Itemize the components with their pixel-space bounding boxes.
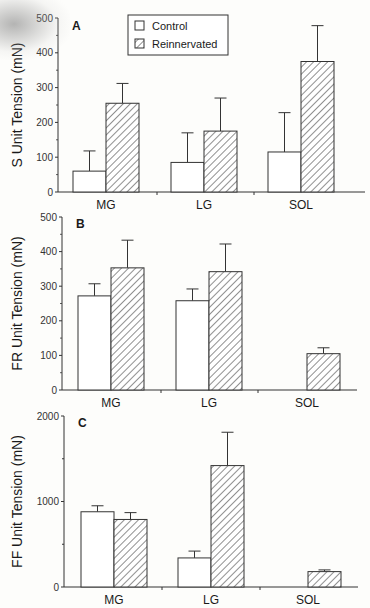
panel-label: C [78,416,87,430]
y-tick-label: 100 [36,152,53,163]
legend-control-swatch [135,21,144,30]
bar-lg-control [176,301,209,390]
y-tick-label: 100 [40,350,57,361]
bar-lg-control [171,162,204,192]
y-tick-label: 200 [36,117,53,128]
x-tick-label: SOL [289,198,313,212]
bar-lg-reinnervated [209,272,242,390]
y-axis-label: S Unit Tension (mN) [9,42,25,167]
y-tick-label: 200 [40,315,57,326]
bar-sol-reinnervated [308,572,341,587]
x-tick-label: MG [96,198,115,212]
bar-sol-reinnervated [307,354,340,390]
bar-mg-reinnervated [114,519,147,587]
bar-lg-control [178,558,211,587]
panel-label: A [72,19,81,33]
bar-sol-reinnervated [301,62,334,193]
panel-label: B [76,217,85,231]
x-tick-label: SOL [296,593,320,607]
y-axis-label: FF Unit Tension (mN) [9,435,25,568]
y-tick-label: 0 [53,582,59,593]
bar-lg-reinnervated [204,131,237,192]
x-tick-label: LG [203,593,219,607]
x-tick-label: SOL [295,396,319,410]
legend: ControlReinnervated [128,15,228,55]
bar-mg-reinnervated [111,268,144,390]
y-tick-label: 500 [36,13,53,24]
figure: 0100200300400500S Unit Tension (mN)AMGLG… [0,0,370,608]
y-tick-label: 300 [40,281,57,292]
y-axis-label: FR Unit Tension (mN) [9,236,25,370]
legend-reinnervated-label: Reinnervated [152,38,217,50]
bar-mg-reinnervated [106,103,139,192]
bar-lg-reinnervated [211,466,244,587]
x-tick-label: MG [104,593,123,607]
legend-control-label: Control [152,20,187,32]
panel-b: 0100200300400500FR Unit Tension (mN)BMGL… [9,212,357,411]
bar-mg-control [73,171,106,192]
y-tick-label: 0 [47,187,53,198]
y-tick-label: 400 [40,246,57,257]
y-tick-label: 0 [51,385,57,396]
y-tick-label: 500 [40,212,57,223]
x-tick-label: LG [196,198,212,212]
y-tick-label: 300 [36,82,53,93]
y-tick-label: 400 [36,47,53,58]
y-tick-label: 1000 [37,496,60,507]
x-tick-label: MG [101,396,120,410]
bar-mg-control [78,296,111,390]
x-tick-label: LG [201,396,217,410]
legend-reinnervated-swatch [135,39,144,48]
panel-c: 010002000FF Unit Tension (mN)CMGLGSOL [9,411,358,608]
y-tick-label: 2000 [37,411,60,422]
bar-sol-control [268,152,301,192]
bar-mg-control [81,512,114,587]
